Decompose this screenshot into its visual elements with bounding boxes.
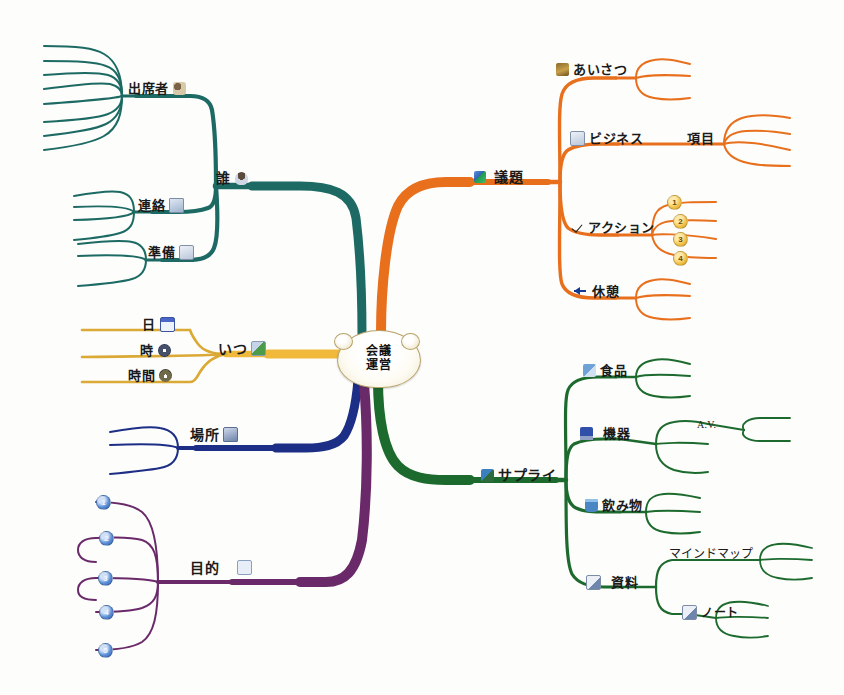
node-shokuhin[interactable]: 食品 — [583, 364, 627, 377]
node-note-label: ノート — [701, 607, 739, 619]
node-jikan[interactable]: 時間 — [128, 369, 172, 382]
camera-icon — [556, 63, 569, 76]
mokuteki-badge-1: 1 — [96, 495, 111, 510]
timer-icon — [159, 369, 172, 382]
arrow-left-icon — [574, 285, 588, 298]
node-kyuukei-label: 休憩 — [592, 285, 619, 298]
node-mokuteki[interactable]: 目的 — [190, 560, 252, 575]
node-nomimono-label: 飲み物 — [602, 499, 643, 512]
person-icon — [235, 172, 248, 185]
drink-icon — [585, 499, 598, 512]
note-icon — [570, 131, 585, 146]
action-badge-1: 1 — [667, 195, 682, 210]
node-shussekisha[interactable]: 出席者 — [128, 82, 186, 95]
node-ji[interactable]: 時 — [140, 344, 171, 357]
node-business[interactable]: ビジネス 項目 — [570, 131, 714, 146]
people-icon — [173, 82, 186, 95]
node-business-label: ビジネス — [589, 132, 643, 145]
mokuteki-badge-2: 2 — [99, 531, 114, 546]
node-supply[interactable]: サプライ — [481, 468, 556, 482]
node-itsu-label: いつ — [218, 342, 247, 356]
node-aisatsu[interactable]: あいさつ — [556, 63, 627, 76]
sort-icon — [179, 245, 194, 260]
node-junbi-label: 準備 — [148, 246, 175, 259]
node-renraku-label: 連絡 — [138, 199, 165, 212]
place-icon — [223, 427, 238, 442]
node-hi[interactable]: 日 — [142, 317, 175, 332]
node-shokuhin-label: 食品 — [600, 364, 627, 377]
node-dare[interactable]: 誰 — [216, 171, 248, 185]
supply-icon — [481, 469, 494, 482]
node-mokuteki-label: 目的 — [190, 561, 219, 575]
node-mindmap[interactable]: マインドマップ — [669, 548, 753, 560]
node-kiki-label: 機器 — [603, 427, 630, 440]
node-gidai-label: 議題 — [494, 170, 523, 184]
node-av[interactable]: A.V. — [697, 419, 716, 430]
mindmap-branches — [0, 0, 844, 695]
central-node-ear-left — [334, 333, 353, 350]
node-shiryou-label: 資料 — [611, 576, 638, 589]
node-mindmap-label: マインドマップ — [669, 548, 753, 560]
diamond-icon — [474, 171, 486, 183]
node-ji-label: 時 — [140, 344, 154, 357]
mokuteki-badge-4: 4 — [99, 605, 114, 620]
branch-itsu[interactable] — [82, 330, 340, 382]
central-node-title-line2: 運営 — [366, 359, 392, 373]
node-renraku[interactable]: 連絡 — [138, 198, 184, 213]
branch-dare[interactable] — [44, 46, 362, 336]
node-gidai[interactable]: 議題 — [474, 170, 523, 184]
node-hi-label: 日 — [142, 318, 156, 331]
node-jikan-label: 時間 — [128, 369, 155, 382]
purpose-icon — [237, 560, 252, 575]
node-action-label: アクション — [588, 221, 655, 234]
node-koumoku-label: 項目 — [687, 132, 714, 145]
node-dare-label: 誰 — [216, 171, 231, 185]
node-supply-label: サプライ — [498, 468, 556, 482]
action-badge-2: 2 — [673, 214, 688, 229]
node-shussekisha-label: 出席者 — [128, 82, 169, 95]
branch-mokuteki[interactable] — [78, 384, 367, 650]
node-itsu[interactable]: いつ — [218, 341, 266, 356]
clock-icon — [158, 344, 171, 357]
calendar-icon — [160, 317, 175, 332]
node-aisatsu-label: あいさつ — [573, 63, 627, 76]
food-icon — [583, 364, 596, 377]
when-icon — [251, 341, 266, 356]
node-kiki[interactable]: 機器 — [580, 427, 630, 440]
action-badge-3: 3 — [673, 232, 688, 247]
action-badge-4: 4 — [673, 251, 688, 266]
doc-icon — [682, 605, 697, 620]
node-basho[interactable]: 場所 — [190, 427, 238, 442]
monitor-icon — [580, 427, 593, 440]
node-junbi[interactable]: 準備 — [148, 245, 194, 260]
check-icon — [572, 221, 584, 234]
node-basho-label: 場所 — [190, 428, 219, 442]
central-node-title-line1: 会議 — [366, 345, 392, 359]
central-node-ear-right — [401, 333, 420, 350]
node-shiryou[interactable]: 資料 — [586, 575, 638, 590]
node-action[interactable]: アクション — [572, 221, 655, 234]
mokuteki-badge-5: 5 — [98, 643, 113, 658]
mindmap-canvas: 会議 運営 出席者 連絡 準備 誰 日 時 時間 いつ 場所 — [0, 0, 844, 695]
node-kyuukei[interactable]: 休憩 — [574, 285, 619, 298]
node-note[interactable]: ノート — [682, 605, 739, 620]
node-nomimono[interactable]: 飲み物 — [585, 499, 643, 512]
mokuteki-badge-3: 3 — [98, 571, 113, 586]
book-icon — [169, 198, 184, 213]
doc-icon — [586, 575, 601, 590]
